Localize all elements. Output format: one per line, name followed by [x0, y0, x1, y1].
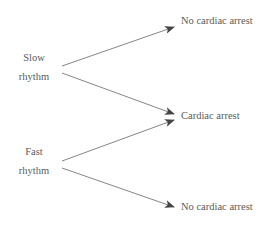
node-fast-line1: Fast	[9, 146, 59, 158]
node-slow-line2: rhythm	[9, 71, 59, 83]
node-fast-line2: rhythm	[9, 165, 59, 177]
arrow-slow-to-arrest	[62, 73, 174, 114]
arrow-slow-to-no-arrest	[62, 27, 174, 66]
outcome-top: No cardiac arrest	[181, 15, 253, 27]
node-slow-line1: Slow	[9, 52, 59, 64]
outcome-mid: Cardiac arrest	[181, 110, 240, 122]
arrow-fast-to-no-arrest	[62, 168, 174, 207]
arrow-fast-to-arrest	[62, 120, 174, 161]
outcome-bottom: No cardiac arrest	[181, 201, 253, 213]
